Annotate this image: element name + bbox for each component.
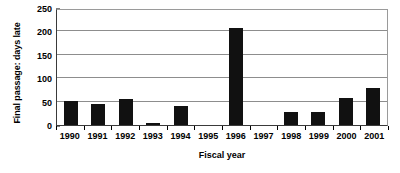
y-axis-title: Final passage: days late	[12, 8, 22, 138]
x-tick-label: 1991	[84, 131, 112, 141]
bar-slot	[85, 10, 113, 125]
x-axis-title: Fiscal year	[56, 150, 388, 160]
bar	[339, 98, 353, 125]
x-tick-mark	[56, 126, 57, 130]
x-tick-label: 1994	[167, 131, 195, 141]
x-tick-mark	[250, 126, 251, 130]
x-tick-label: 1992	[111, 131, 139, 141]
bar-slot	[277, 10, 305, 125]
plot-area	[56, 9, 388, 126]
bar-slot	[195, 10, 223, 125]
y-tick-label: 250	[37, 4, 52, 14]
bar	[64, 101, 78, 125]
x-tick-mark	[194, 126, 195, 130]
x-tick-mark	[277, 126, 278, 130]
bar-slot	[305, 10, 333, 125]
x-tick-label: 1997	[250, 131, 278, 141]
x-tick-mark	[84, 126, 85, 130]
bar-slot	[222, 10, 250, 125]
x-tick-mark	[167, 126, 168, 130]
x-tick-mark	[139, 126, 140, 130]
x-tick-label: 1995	[194, 131, 222, 141]
bar-slot	[360, 10, 388, 125]
bar-slot	[140, 10, 168, 125]
bar-slot	[167, 10, 195, 125]
y-axis-tick-labels: 050100150200250	[22, 9, 56, 126]
bar	[284, 112, 298, 125]
x-tick-mark	[360, 126, 361, 130]
x-tick-label: 2001	[360, 131, 388, 141]
y-tick-label: 0	[47, 121, 52, 131]
bar	[229, 28, 243, 125]
y-tick-label: 50	[42, 98, 52, 108]
bar	[366, 88, 380, 125]
bar-slot	[332, 10, 360, 125]
bar	[91, 104, 105, 125]
x-axis-tick-labels: 1990199119921993199419951996199719981999…	[56, 131, 388, 141]
y-tick-label: 100	[37, 74, 52, 84]
x-tick-label: 1990	[56, 131, 84, 141]
x-tick-mark	[305, 126, 306, 130]
x-tick-label: 1993	[139, 131, 167, 141]
x-tick-mark	[111, 126, 112, 130]
x-tick-label: 1996	[222, 131, 250, 141]
y-tick-label: 150	[37, 51, 52, 61]
bar-slot	[57, 10, 85, 125]
bar	[119, 99, 133, 125]
bar	[174, 106, 188, 125]
bar	[311, 112, 325, 125]
x-tick-label: 1999	[305, 131, 333, 141]
x-tick-mark	[388, 126, 389, 130]
x-tick-mark	[222, 126, 223, 130]
x-tick-label: 1998	[277, 131, 305, 141]
bar-slot	[112, 10, 140, 125]
bar	[146, 123, 160, 125]
y-tick-label: 200	[37, 27, 52, 37]
bar-series	[57, 10, 387, 125]
bar-chart: Final passage: days late 050100150200250…	[0, 0, 400, 173]
bar-slot	[250, 10, 278, 125]
x-tick-mark	[333, 126, 334, 130]
x-tick-label: 2000	[333, 131, 361, 141]
